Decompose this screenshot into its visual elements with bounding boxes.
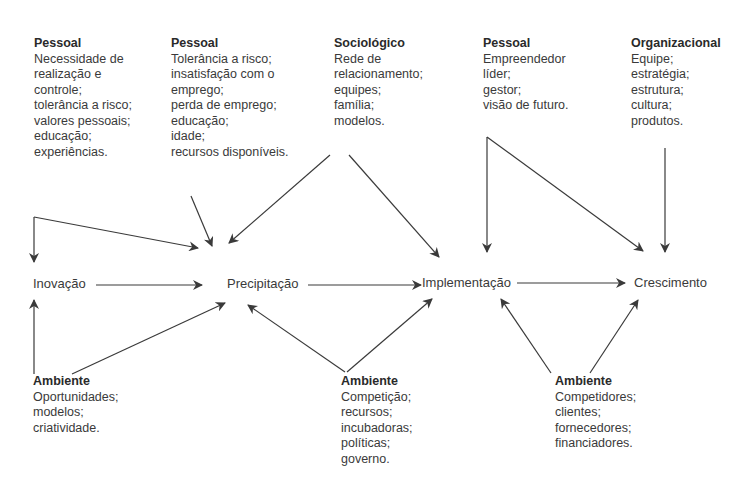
factor-line: relacionamento; <box>334 67 423 83</box>
factor-line: educação; <box>171 114 288 130</box>
factor-line: incubadoras; <box>341 421 413 437</box>
arrow-ambiente2-precipitacao <box>248 305 345 372</box>
factor-line: Empreendedor <box>483 52 568 68</box>
factor-line: Competição; <box>341 390 413 406</box>
factor-pessoal-inovacao: Pessoal Necessidade de realização e cont… <box>34 36 132 160</box>
factor-line: estrutura; <box>631 83 721 99</box>
factor-title: Sociológico <box>334 36 423 52</box>
factor-title: Ambiente <box>555 374 636 390</box>
stage-precipitacao: Precipitação <box>227 276 299 291</box>
arrow-ambiente2-implementacao <box>347 299 432 372</box>
arrow-pessoal2-precipitacao <box>191 196 212 246</box>
factor-line: governo. <box>341 452 413 468</box>
arrow-pessoal1-precipitacao <box>34 217 198 248</box>
stage-implementacao: Implementação <box>422 275 511 290</box>
factor-ambiente-precipitacao: Ambiente Competição; recursos; incubador… <box>341 374 413 467</box>
factor-title: Pessoal <box>171 36 288 52</box>
factor-line: emprego; <box>171 83 288 99</box>
factor-title: Ambiente <box>33 374 118 390</box>
arrow-sociologico-precipitacao <box>229 155 330 243</box>
factor-line: controle; <box>34 83 132 99</box>
factor-line: Tolerância a risco; <box>171 52 288 68</box>
factor-title: Pessoal <box>483 36 568 52</box>
factor-line: modelos. <box>334 114 423 130</box>
factor-ambiente-crescimento: Ambiente Competidores; clientes; fornece… <box>555 374 636 452</box>
arrow-pessoal3-crescimento <box>487 137 643 251</box>
factor-line: modelos; <box>33 405 118 421</box>
factor-line: recursos; <box>341 405 413 421</box>
arrow-ambiente3-implementacao <box>501 299 551 373</box>
factor-pessoal-precipitacao: Pessoal Tolerância a risco; insatisfação… <box>171 36 288 160</box>
arrow-sociologico-implementacao <box>349 155 439 257</box>
factor-line: financiadores. <box>555 436 636 452</box>
factor-line: insatisfação com o <box>171 67 288 83</box>
factor-line: educação; <box>34 129 132 145</box>
factor-line: clientes; <box>555 405 636 421</box>
factor-organizacional: Organizacional Equipe; estratégia; estru… <box>631 36 721 129</box>
factor-line: visão de futuro. <box>483 98 568 114</box>
arrow-ambiente3-crescimento <box>590 300 638 373</box>
factor-pessoal-implementacao: Pessoal Empreendedor líder; gestor; visã… <box>483 36 568 114</box>
factor-line: Necessidade de <box>34 52 132 68</box>
factor-line: tolerância a risco; <box>34 98 132 114</box>
stage-crescimento: Crescimento <box>634 275 707 290</box>
factor-line: valores pessoais; <box>34 114 132 130</box>
factor-title: Pessoal <box>34 36 132 52</box>
arrow-ambiente1-precipitacao <box>72 303 225 374</box>
factor-line: Competidores; <box>555 390 636 406</box>
factor-line: realização e <box>34 67 132 83</box>
factor-line: criatividade. <box>33 421 118 437</box>
factor-line: líder; <box>483 67 568 83</box>
factor-line: produtos. <box>631 114 721 130</box>
factor-line: políticas; <box>341 436 413 452</box>
factor-line: Oportunidades; <box>33 390 118 406</box>
factor-ambiente-inovacao: Ambiente Oportunidades; modelos; criativ… <box>33 374 118 436</box>
factor-line: gestor; <box>483 83 568 99</box>
factor-line: Rede de <box>334 52 423 68</box>
factor-sociologico: Sociológico Rede de relacionamento; equi… <box>334 36 423 129</box>
factor-line: equipes; <box>334 83 423 99</box>
factor-line: fornecedores; <box>555 421 636 437</box>
factor-line: experiências. <box>34 145 132 161</box>
factor-line: família; <box>334 98 423 114</box>
factor-line: perda de emprego; <box>171 98 288 114</box>
factor-line: idade; <box>171 129 288 145</box>
factor-line: estratégia; <box>631 67 721 83</box>
factor-line: cultura; <box>631 98 721 114</box>
factor-line: Equipe; <box>631 52 721 68</box>
stage-inovacao: Inovação <box>33 276 86 291</box>
factor-title: Organizacional <box>631 36 721 52</box>
factor-line: recursos disponíveis. <box>171 145 288 161</box>
factor-title: Ambiente <box>341 374 413 390</box>
